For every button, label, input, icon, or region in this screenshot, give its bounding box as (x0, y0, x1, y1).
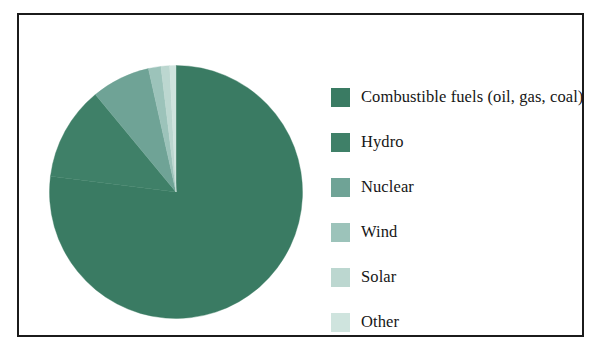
legend-item-label: Solar (361, 269, 396, 286)
legend-item-label: Other (361, 314, 399, 331)
legend-swatch-icon (331, 223, 350, 242)
legend-swatch-icon (331, 313, 350, 332)
legend-swatch-icon (331, 178, 350, 197)
legend-swatch-icon (331, 88, 350, 107)
chart-frame-border: Combustible fuels (oil, gas, coal)HydroN… (17, 13, 584, 337)
legend-item[interactable]: Combustible fuels (oil, gas, coal) (331, 75, 581, 120)
legend-swatch-icon (331, 268, 350, 287)
legend-item-label: Nuclear (361, 179, 414, 196)
legend-swatch-icon (331, 133, 350, 152)
legend-item-label: Hydro (361, 134, 404, 151)
legend-item[interactable]: Nuclear (331, 165, 581, 210)
legend-item[interactable]: Solar (331, 255, 581, 300)
legend-item-label: Wind (361, 224, 397, 241)
legend-item-label: Combustible fuels (oil, gas, coal) (361, 89, 583, 106)
pie-chart-figure: Combustible fuels (oil, gas, coal)HydroN… (0, 0, 599, 352)
pie-svg (49, 65, 303, 319)
chart-legend: Combustible fuels (oil, gas, coal)HydroN… (331, 75, 581, 345)
legend-item[interactable]: Other (331, 300, 581, 345)
legend-item[interactable]: Wind (331, 210, 581, 255)
pie-chart-graphic (49, 65, 303, 319)
pie-slice-group (49, 66, 302, 319)
legend-item[interactable]: Hydro (331, 120, 581, 165)
